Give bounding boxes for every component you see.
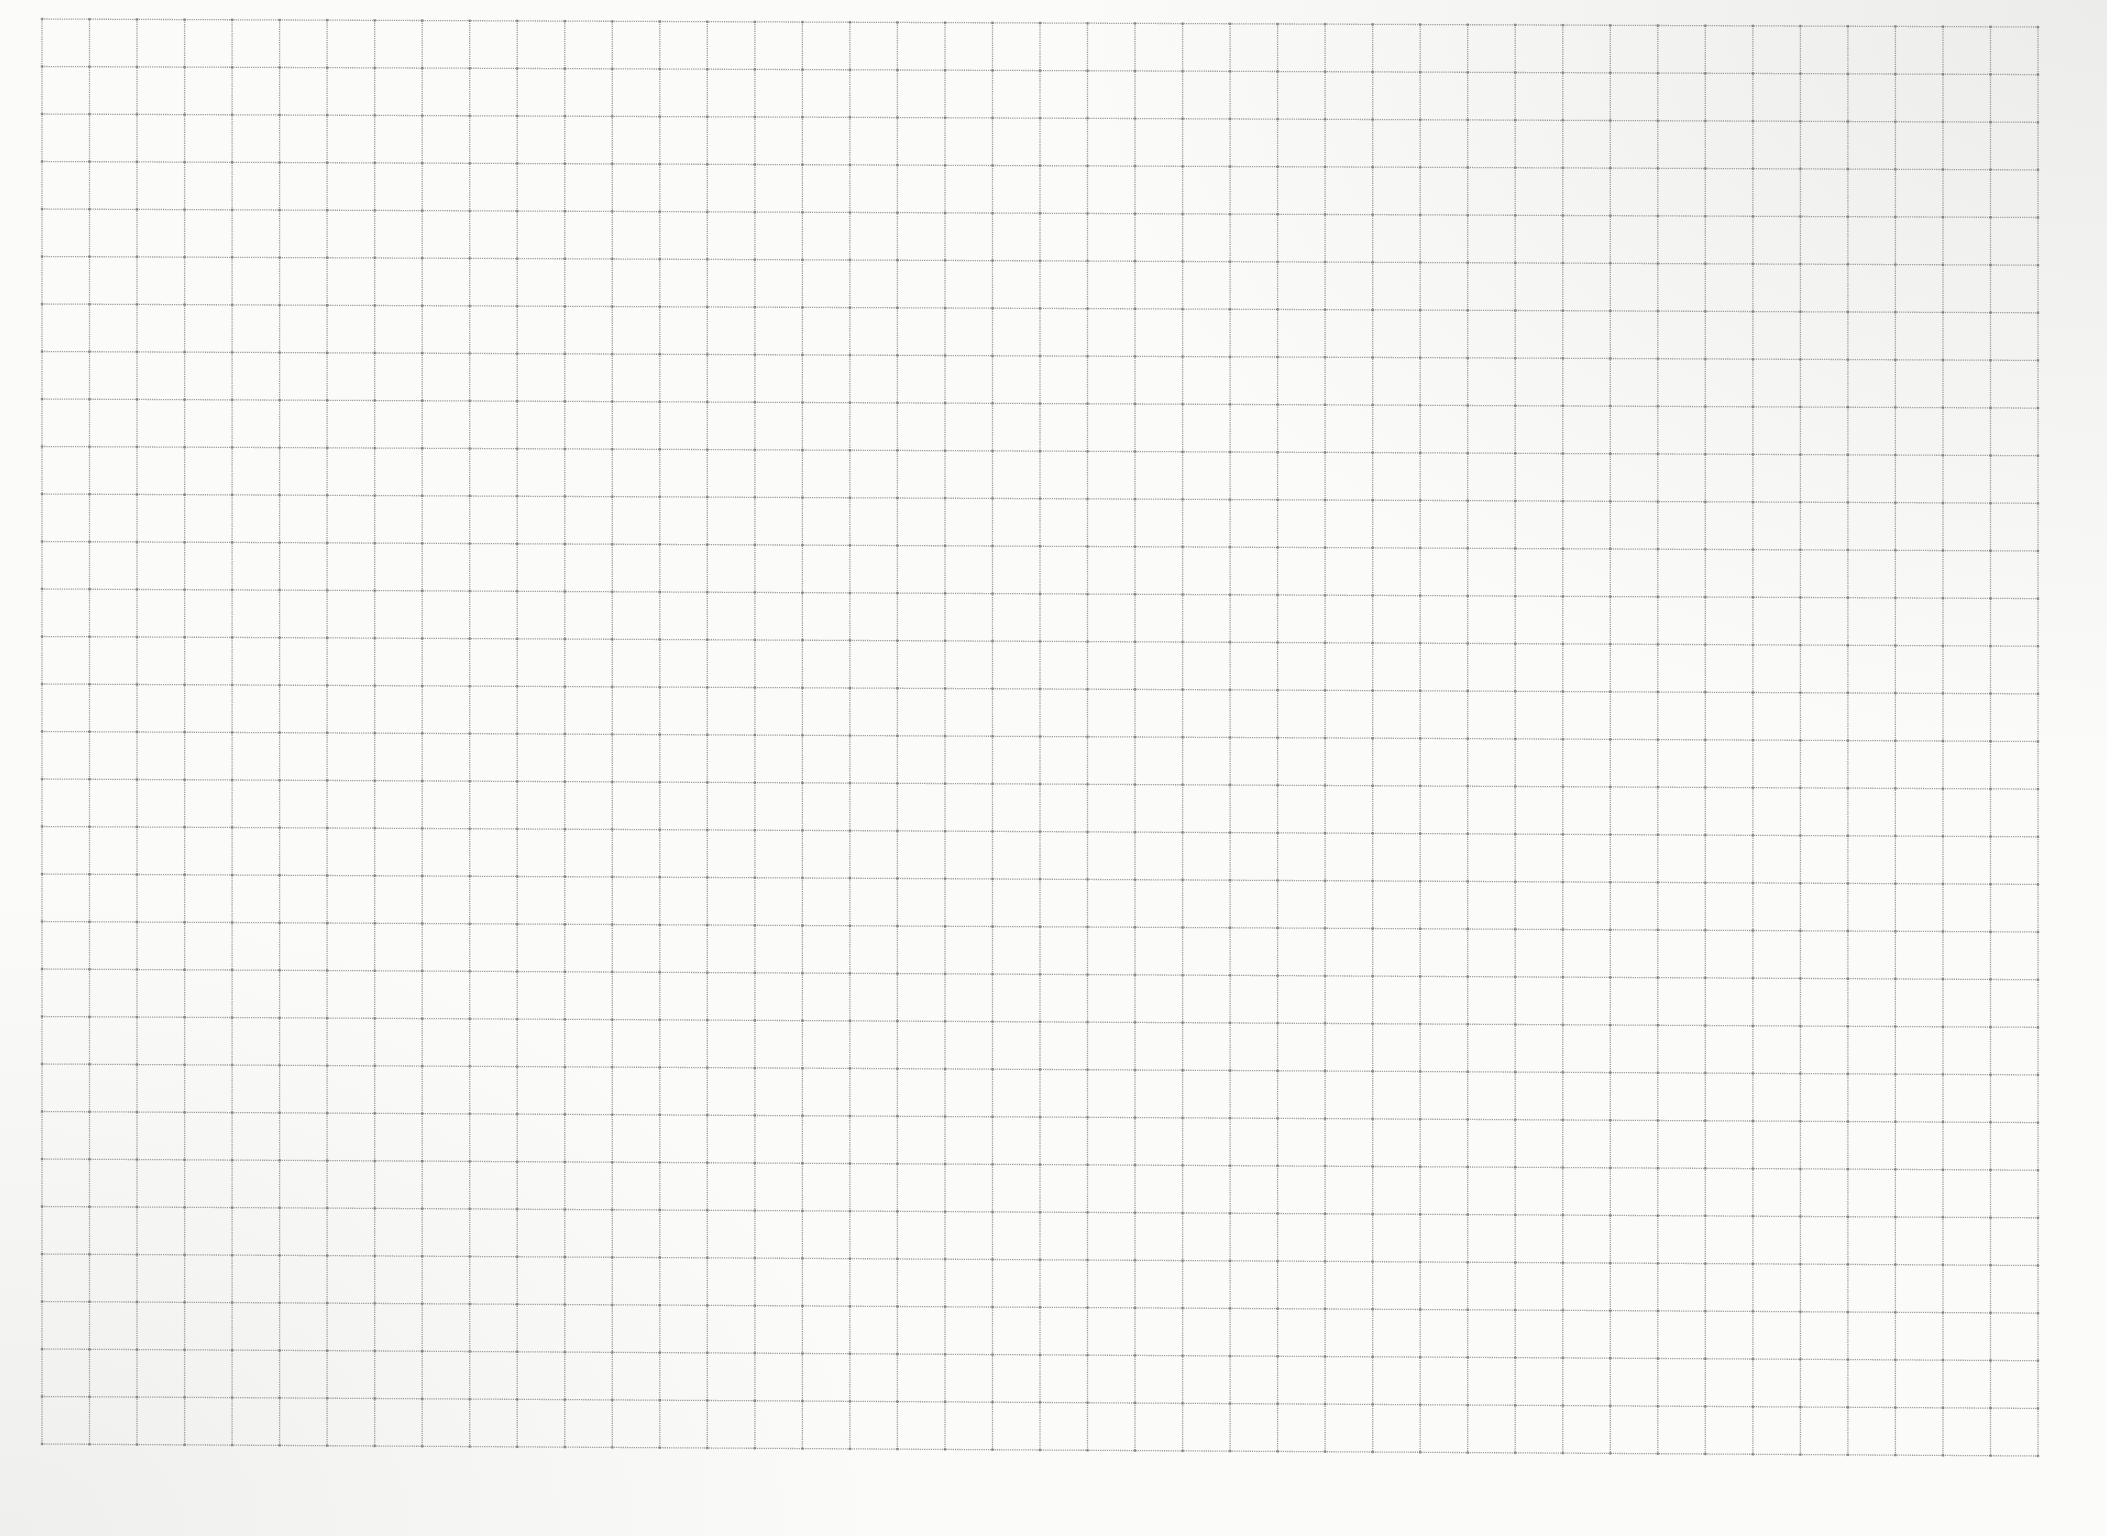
grid-intersection-dot [1894,1311,1896,1313]
grid-intersection-dot [1086,403,1088,405]
grid-intersection-dot [991,117,993,119]
grid-intersection-dot [1039,498,1041,500]
grid-intersection-dot [1704,1310,1706,1312]
grid-intersection-dot [991,1163,993,1165]
grid-intersection-dot [136,1301,138,1303]
grid-intersection-dot [1989,502,1991,504]
grid-intersection-dot [469,305,471,307]
grid-intersection-dot [1752,787,1754,789]
grid-intersection-dot [1039,260,1041,262]
grid-intersection-dot [1752,1453,1754,1455]
grid-intersection-dot [1989,883,1991,885]
grid-intersection-dot [1894,1025,1896,1027]
grid-intersection-dot [421,495,423,497]
grid-intersection-dot [231,1396,233,1398]
grid-intersection-dot [1609,1405,1611,1407]
grid-intersection-dot [1086,1449,1088,1451]
grid-intersection-dot [1419,452,1421,454]
grid-intersection-dot [2037,597,2039,599]
grid-intersection-dot [1467,595,1469,597]
grid-intersection-dot [801,734,803,736]
grid-intersection-dot [659,686,661,688]
grid-intersection-dot [278,1302,280,1304]
grid-intersection-dot [754,354,756,356]
grid-intersection-dot [136,66,138,68]
grid-intersection-dot [1467,1071,1469,1073]
grid-intersection-dot [231,351,233,353]
grid-intersection-dot [896,354,898,356]
grid-intersection-dot [1609,500,1611,502]
grid-intersection-dot [1181,1212,1183,1214]
grid-intersection-dot [801,449,803,451]
grid-intersection-dot [1989,1359,1991,1361]
grid-intersection-dot [516,1398,518,1400]
grid-intersection-dot [2037,264,2039,266]
grid-intersection-dot [2037,1360,2039,1362]
grid-intersection-dot [1847,692,1849,694]
grid-intersection-dot [1419,1118,1421,1120]
grid-intersection-dot [706,686,708,688]
grid-intersection-dot [326,969,328,971]
grid-intersection-dot [754,68,756,70]
grid-intersection-dot [849,497,851,499]
grid-intersection-dot [896,830,898,832]
grid-intersection-dot [2037,788,2039,790]
grid-intersection-dot [1942,930,1944,932]
grid-intersection-dot [374,1445,376,1447]
grid-intersection-dot [1324,1165,1326,1167]
grid-intersection-dot [1467,214,1469,216]
grid-intersection-dot [136,968,138,970]
grid-intersection-dot [1657,120,1659,122]
grid-intersection-dot [991,1353,993,1355]
grid-intersection-dot [611,400,613,402]
grid-intersection-dot [1181,688,1183,690]
grid-intersection-dot [754,1209,756,1211]
grid-intersection-dot [659,1019,661,1021]
grid-intersection-dot [88,208,90,210]
grid-intersection-dot [1467,166,1469,168]
grid-intersection-dot [183,1349,185,1351]
grid-intersection-dot [801,829,803,831]
grid-intersection-dot [1372,404,1374,406]
grid-intersection-dot [88,1111,90,1113]
grid-intersection-dot [1847,549,1849,551]
grid-intersection-dot [469,637,471,639]
grid-intersection-dot [136,636,138,638]
grid-intersection-dot [659,1399,661,1401]
grid-intersection-dot [41,493,43,495]
grid-intersection-dot [41,1348,43,1350]
grid-intersection-dot [991,640,993,642]
grid-intersection-dot [136,1016,138,1018]
grid-intersection-dot [326,67,328,69]
grid-intersection-dot [1419,1261,1421,1263]
grid-intersection-dot [801,354,803,356]
grid-intersection-dot [991,497,993,499]
grid-intersection-dot [611,1114,613,1116]
grid-intersection-dot [754,734,756,736]
grid-intersection-dot [1086,498,1088,500]
grid-intersection-dot [1181,1164,1183,1166]
grid-intersection-dot [41,398,43,400]
grid-intersection-dot [1324,23,1326,25]
grid-intersection-dot [88,921,90,923]
grid-intersection-dot [706,591,708,593]
grid-intersection-dot [1086,22,1088,24]
grid-intersection-dot [1467,737,1469,739]
grid-intersection-dot [136,493,138,495]
grid-intersection-dot [421,637,423,639]
grid-intersection-dot [1372,737,1374,739]
grid-intersection-dot [564,1303,566,1305]
grid-intersection-dot [1324,1403,1326,1405]
grid-intersection-dot [1134,1402,1136,1404]
grid-intersection-dot [1134,308,1136,310]
grid-intersection-dot [659,591,661,593]
grid-intersection-dot [896,449,898,451]
grid-intersection-dot [1134,593,1136,595]
grid-intersection-dot [896,1305,898,1307]
grid-intersection-dot [1372,166,1374,168]
grid-intersection-dot [1704,929,1706,931]
grid-intersection-dot [1467,500,1469,502]
grid-intersection-dot [1562,1119,1564,1121]
grid-intersection-dot [801,116,803,118]
grid-intersection-dot [1229,831,1231,833]
